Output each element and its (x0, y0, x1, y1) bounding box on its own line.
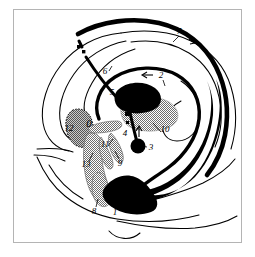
label-3: 3 (148, 142, 154, 152)
figure-container: 0 1 2 3 4 5 6 7 8 9 10 11 12 13 (0, 0, 255, 257)
label-13: 13 (82, 159, 92, 169)
label-4: 4 (123, 128, 128, 138)
label-2: 2 (159, 70, 164, 80)
label-10: 10 (161, 124, 171, 134)
label-8: 8 (92, 206, 97, 216)
label-9: 9 (118, 158, 123, 168)
label-12: 12 (65, 123, 75, 133)
label-5: 5 (110, 87, 115, 97)
label-1: 1 (113, 207, 118, 217)
label-6: 6 (103, 66, 108, 76)
brain-sagittal-diagram: 0 1 2 3 4 5 6 7 8 9 10 11 12 13 (13, 9, 242, 243)
label-0: 0 (86, 117, 92, 129)
leader-6 (109, 66, 112, 71)
leader-2 (163, 80, 165, 86)
stipple-region-connector (88, 121, 121, 133)
leader-7 (173, 36, 179, 42)
label-11: 11 (101, 139, 109, 149)
label-7: 7 (177, 26, 182, 36)
